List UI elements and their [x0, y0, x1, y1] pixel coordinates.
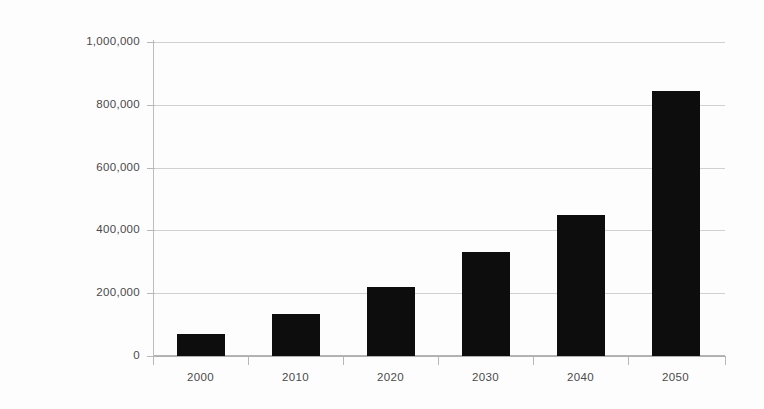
x-tick-label-2000: 2000 — [153, 371, 248, 383]
x-tick-mark-2 — [343, 357, 344, 365]
y-axis-tick-labels: 1,000,000 800,000 600,000 400,000 200,00… — [16, 0, 140, 409]
y-tick-label-1000000: 1,000,000 — [16, 35, 140, 47]
plot-area — [153, 42, 725, 356]
bar-2050[interactable] — [652, 91, 700, 356]
gridline-800000 — [153, 105, 725, 106]
gridline-200000 — [153, 293, 725, 294]
bar-2010[interactable] — [272, 314, 320, 356]
bar-2000[interactable] — [177, 334, 225, 356]
y-tick-label-200000: 200,000 — [16, 286, 140, 298]
y-tick-label-800000: 800,000 — [16, 98, 140, 110]
bar-2030[interactable] — [462, 252, 510, 356]
x-tick-label-2040: 2040 — [533, 371, 628, 383]
x-tick-mark-5 — [628, 357, 629, 365]
bar-2020[interactable] — [367, 287, 415, 356]
y-tick-mark-1000000 — [147, 42, 155, 43]
x-tick-mark-0 — [153, 357, 154, 365]
x-tick-mark-6 — [725, 357, 726, 365]
x-tick-label-2050: 2050 — [628, 371, 723, 383]
x-tick-mark-1 — [248, 357, 249, 365]
gridline-1000000 — [153, 42, 725, 43]
gridline-600000 — [153, 168, 725, 169]
y-axis-line — [153, 40, 154, 358]
bar-chart: 1,000,000 800,000 600,000 400,000 200,00… — [0, 0, 764, 409]
x-tick-mark-3 — [438, 357, 439, 365]
y-tick-mark-200000 — [147, 293, 155, 294]
y-tick-label-0: 0 — [16, 349, 140, 361]
gridline-400000 — [153, 230, 725, 231]
y-tick-mark-600000 — [147, 168, 155, 169]
y-tick-mark-400000 — [147, 230, 155, 231]
bar-2040[interactable] — [557, 215, 605, 356]
x-tick-label-2010: 2010 — [248, 371, 343, 383]
x-tick-mark-4 — [533, 357, 534, 365]
y-tick-label-400000: 400,000 — [16, 223, 140, 235]
x-tick-label-2020: 2020 — [343, 371, 438, 383]
x-axis-line — [153, 356, 726, 357]
y-tick-label-600000: 600,000 — [16, 161, 140, 173]
x-tick-label-2030: 2030 — [438, 371, 533, 383]
y-tick-mark-800000 — [147, 105, 155, 106]
